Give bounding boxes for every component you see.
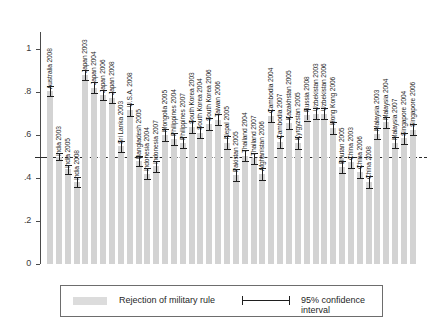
bar[interactable] xyxy=(224,143,230,264)
bar[interactable] xyxy=(268,116,274,264)
bar-label: Australia 2008 xyxy=(46,48,53,89)
error-bar-cap-lower xyxy=(56,160,63,161)
bar[interactable] xyxy=(197,133,203,264)
bar[interactable] xyxy=(47,91,53,264)
bar[interactable] xyxy=(65,169,71,264)
bar-slot[interactable]: Taiwan 2006 xyxy=(215,32,223,264)
error-bar-cap-lower xyxy=(259,180,266,181)
bar[interactable] xyxy=(410,130,416,264)
bar-slot[interactable]: Thailand 2004 xyxy=(242,32,250,264)
bar-slot[interactable]: Uzbekistan 2006 xyxy=(321,32,329,264)
bar-slot[interactable]: Kazakhstan 2005 xyxy=(286,32,294,264)
bar[interactable] xyxy=(100,95,106,264)
error-bar-cap-lower xyxy=(180,148,187,149)
bar-slot[interactable]: Philippines 2007 xyxy=(180,32,188,264)
legend-ci-line xyxy=(242,300,290,301)
bar-slot[interactable]: South Korea 2004 xyxy=(197,32,205,264)
bar-slot[interactable]: Cambodia 2004 xyxy=(268,32,276,264)
bar[interactable] xyxy=(357,172,363,264)
bar[interactable] xyxy=(242,156,248,264)
bar-slot[interactable]: Pakistan 2005 xyxy=(233,32,241,264)
bar-slot[interactable]: Bhutan 2005 xyxy=(339,32,347,264)
bar[interactable] xyxy=(321,114,327,264)
bar-slot[interactable]: Nepal 2005 xyxy=(224,32,232,264)
bar-slot[interactable]: Indonesia 2007 xyxy=(153,32,161,264)
error-bar-cap-lower xyxy=(410,135,417,136)
error-bar-cap-lower xyxy=(47,96,54,97)
bar[interactable] xyxy=(189,127,195,264)
bar-slot[interactable]: Mongolia 2005 xyxy=(162,32,170,264)
bar[interactable] xyxy=(401,138,407,264)
bar[interactable] xyxy=(348,162,354,264)
error-bar-cap-lower xyxy=(233,181,240,182)
bar-label: China 2003 xyxy=(347,127,354,160)
bar-slot[interactable]: U.S.A. 2008 xyxy=(127,32,135,264)
y-tick xyxy=(36,221,40,222)
bar-slot[interactable]: Singapore 2006 xyxy=(410,32,418,264)
bar[interactable] xyxy=(74,182,80,264)
bar[interactable] xyxy=(91,88,97,264)
error-bar-cap-lower xyxy=(348,168,355,169)
bar-slot[interactable]: China 2003 xyxy=(348,32,356,264)
bar[interactable] xyxy=(374,134,380,264)
bar-slot[interactable]: Japan 2008 xyxy=(109,32,117,264)
bar[interactable] xyxy=(339,167,345,264)
bar[interactable] xyxy=(136,161,142,264)
bar[interactable] xyxy=(206,124,212,264)
y-tick xyxy=(36,49,40,50)
bar-slot[interactable]: Singapore 2004 xyxy=(401,32,409,264)
bar[interactable] xyxy=(162,135,168,264)
bar-slot[interactable]: Malaysia 2007 xyxy=(392,32,400,264)
error-bar-cap-lower xyxy=(383,128,390,129)
bar-label: India 2003 xyxy=(55,126,62,156)
error-bar-cap-lower xyxy=(91,93,98,94)
bar-slot[interactable]: Hong Kong 2006 xyxy=(330,32,338,264)
bar-slot[interactable]: Malaysia 2003 xyxy=(374,32,382,264)
bar[interactable] xyxy=(295,143,301,264)
bar[interactable] xyxy=(171,139,177,264)
bar-slot[interactable]: Sri Lanka 2003 xyxy=(118,32,126,264)
bar[interactable] xyxy=(233,175,239,264)
bar[interactable] xyxy=(251,158,257,264)
bar-label: Malaysia 2004 xyxy=(382,79,389,120)
bar[interactable] xyxy=(286,123,292,264)
bar[interactable] xyxy=(153,166,159,264)
bar[interactable] xyxy=(366,182,372,264)
bar[interactable] xyxy=(313,114,319,264)
bar[interactable] xyxy=(56,157,62,264)
bar-label: Kazakhstan 2005 xyxy=(285,70,292,119)
bar-slot[interactable]: Russia 2008 xyxy=(304,32,312,264)
bar[interactable] xyxy=(259,174,265,264)
bar-slot[interactable]: South Korea 2006 xyxy=(206,32,214,264)
bar-slot[interactable]: Philippines 2004 xyxy=(171,32,179,264)
bar[interactable] xyxy=(109,98,115,264)
bar[interactable] xyxy=(330,128,336,264)
legend: Rejection of military rule 95% confidenc… xyxy=(60,285,383,317)
bar[interactable] xyxy=(383,122,389,264)
bar-slot[interactable]: Cambodia 2007 xyxy=(277,32,285,264)
bar[interactable] xyxy=(127,110,133,264)
bar-slot[interactable]: Kyrgyzstan 2005 xyxy=(295,32,303,264)
legend-ci-label: 95% confidence interval xyxy=(301,295,382,315)
bar-label: Bangladesh 2005 xyxy=(135,109,142,159)
y-tick xyxy=(36,264,40,265)
bar[interactable] xyxy=(118,146,124,264)
error-bar-cap-lower xyxy=(109,103,116,104)
bar-slot[interactable]: Australia 2008 xyxy=(47,32,55,264)
bar[interactable] xyxy=(277,142,283,264)
bar[interactable] xyxy=(215,120,221,264)
bar-slot[interactable]: Malaysia 2004 xyxy=(383,32,391,264)
bar[interactable] xyxy=(392,143,398,264)
bar[interactable] xyxy=(180,143,186,264)
bar[interactable] xyxy=(82,75,88,264)
bar-label: South Korea 2004 xyxy=(196,78,203,130)
bar-slot[interactable]: China 2006 xyxy=(357,32,365,264)
bar-slot[interactable]: South Korea 2003 xyxy=(189,32,197,264)
bar-slot[interactable]: India 2005 xyxy=(65,32,73,264)
bar-slot[interactable]: India 2003 xyxy=(56,32,64,264)
bar-slot[interactable]: China 2008 xyxy=(366,32,374,264)
bar[interactable] xyxy=(304,115,310,264)
bar[interactable] xyxy=(144,174,150,264)
bar-slot[interactable]: Japan 2006 xyxy=(100,32,108,264)
bar-label: Malaysia 2007 xyxy=(391,99,398,140)
